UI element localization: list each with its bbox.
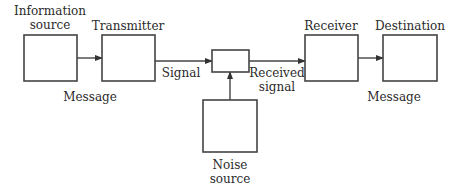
label-line: Information — [14, 4, 86, 18]
label-line: Destination — [375, 19, 445, 33]
transmitter-box — [102, 35, 155, 81]
label-line: Message — [367, 90, 421, 104]
label-line: Receiver — [304, 19, 357, 33]
information-source-box — [24, 35, 77, 81]
label-line: Received — [249, 66, 304, 80]
receiver-box — [305, 35, 358, 81]
transmitter-label: Transmitter — [92, 19, 164, 33]
edge-label-transmitter-to-channel: Signal — [162, 66, 200, 80]
destination-box — [383, 35, 437, 81]
label-line: Noise — [210, 158, 251, 172]
label-line: Transmitter — [92, 19, 164, 33]
noise-source-label: Noisesource — [210, 158, 251, 186]
label-line: Signal — [162, 66, 200, 80]
receiver-label: Receiver — [304, 19, 357, 33]
label-line: source — [210, 172, 251, 186]
information-source-label: Informationsource — [14, 4, 86, 32]
channel-box — [212, 50, 249, 72]
noise-source-box — [203, 100, 257, 152]
destination-label: Destination — [375, 19, 445, 33]
label-line: source — [14, 18, 86, 32]
label-line: signal — [249, 80, 304, 94]
edge-label-channel-to-receiver: Receivedsignal — [249, 66, 304, 94]
edge-label-information-source-to-transmitter: Message — [63, 90, 117, 104]
edge-label-receiver-to-destination: Message — [367, 90, 421, 104]
label-line: Message — [63, 90, 117, 104]
